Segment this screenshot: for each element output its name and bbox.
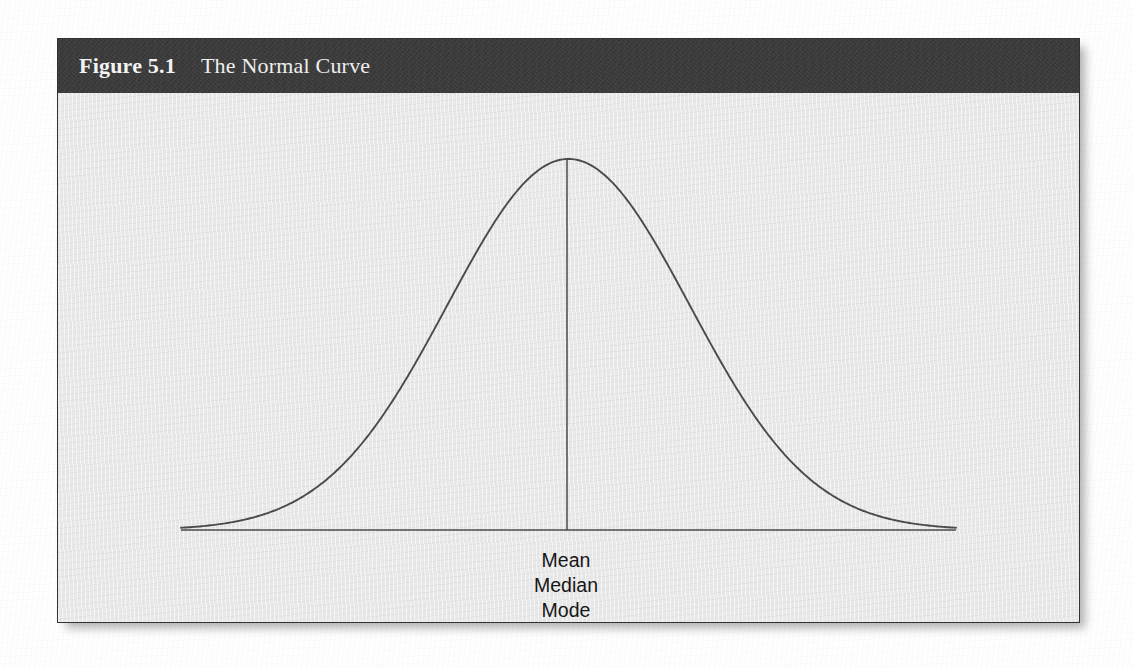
figure-header: Figure 5.1 The Normal Curve — [58, 39, 1079, 93]
figure-box: Figure 5.1 The Normal Curve Mean Median … — [57, 38, 1080, 623]
normal-distribution-curve — [181, 159, 956, 528]
scanned-page: Figure 5.1 The Normal Curve Mean Median … — [0, 0, 1133, 668]
figure-caption-title: The Normal Curve — [201, 53, 370, 79]
figure-number: Figure 5.1 — [79, 53, 176, 79]
normal-curve-plot — [58, 93, 1079, 622]
figure-plot-area: Mean Median Mode — [58, 93, 1079, 622]
